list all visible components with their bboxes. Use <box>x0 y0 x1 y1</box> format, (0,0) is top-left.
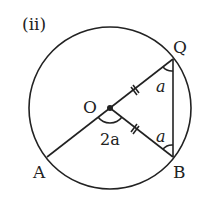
label-q: Q <box>173 37 187 57</box>
angle-arc-q <box>163 67 173 71</box>
circle-geometry-diagram: (ii) O Q B A a a 2a <box>0 0 209 201</box>
label-o: O <box>83 97 97 117</box>
angle-label-q: a <box>156 77 166 96</box>
label-a: A <box>32 162 46 182</box>
angle-arc-o <box>98 117 122 123</box>
label-b: B <box>173 162 186 182</box>
part-label: (ii) <box>22 14 46 34</box>
angle-label-b: a <box>156 127 166 146</box>
center-point-o <box>107 105 113 111</box>
angle-label-o: 2a <box>100 130 120 149</box>
